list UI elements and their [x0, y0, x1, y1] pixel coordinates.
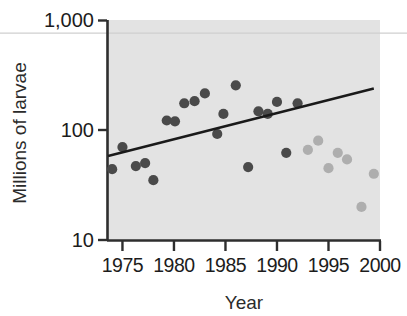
- data-point: [200, 88, 210, 98]
- plot-area-background: [107, 20, 380, 241]
- x-tick-label-1995: 1995: [308, 254, 350, 276]
- chart-svg: 1,000 100 10 197519801985199019952000 Ye…: [0, 0, 407, 316]
- data-point: [333, 148, 343, 158]
- data-point: [131, 161, 141, 171]
- data-point: [303, 145, 313, 155]
- data-point: [148, 175, 158, 185]
- x-tick-label-1985: 1985: [205, 254, 247, 276]
- x-tick-label-1990: 1990: [256, 254, 298, 276]
- data-point: [231, 80, 241, 90]
- x-tick-label-2000: 2000: [359, 254, 401, 276]
- y-tick-label-1000: 1,000: [44, 9, 94, 31]
- data-point: [107, 164, 117, 174]
- data-point: [323, 163, 333, 173]
- y-axis-title: Millions of larvae: [9, 62, 30, 204]
- data-point: [356, 202, 366, 212]
- data-point: [243, 162, 253, 172]
- data-point: [179, 98, 189, 108]
- data-point: [170, 116, 180, 126]
- x-axis-title: Year: [225, 292, 264, 313]
- data-point: [189, 96, 199, 106]
- data-point: [369, 169, 379, 179]
- data-point: [313, 136, 323, 146]
- data-point: [342, 154, 352, 164]
- chart-figure: 1,000 100 10 197519801985199019952000 Ye…: [0, 0, 407, 316]
- data-point: [253, 106, 263, 116]
- data-point: [140, 158, 150, 168]
- data-point: [218, 109, 228, 119]
- x-tick-label-1980: 1980: [153, 254, 195, 276]
- y-tick-label-10: 10: [72, 229, 94, 251]
- data-point: [272, 97, 282, 107]
- data-point: [281, 148, 291, 158]
- y-tick-label-100: 100: [61, 119, 94, 141]
- x-tick-label-1975: 1975: [102, 254, 144, 276]
